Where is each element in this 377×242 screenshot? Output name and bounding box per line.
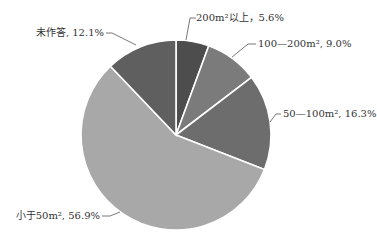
leader-line — [270, 114, 281, 122]
slice-label-under-50: 小于50m², 56.9% — [16, 210, 100, 221]
pie-chart: 200m²以上，5.6% 100—200m², 9.0% 50—100m², 1… — [0, 0, 377, 242]
pie-slices — [81, 40, 271, 230]
leader-line — [232, 44, 256, 57]
leader-line — [102, 212, 120, 216]
slice-label-no-answer: 未作答, 12.1% — [36, 26, 104, 38]
leader-line — [186, 18, 196, 40]
slice-label-200-plus: 200m²以上，5.6% — [196, 12, 284, 23]
slice-label-50-100: 50—100m², 16.3% — [283, 108, 376, 119]
slice-label-100-200: 100—200m², 9.0% — [258, 38, 351, 49]
leader-line — [106, 33, 136, 45]
